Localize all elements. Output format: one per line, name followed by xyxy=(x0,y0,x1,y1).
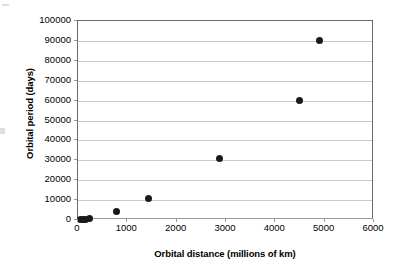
data-point xyxy=(216,155,223,162)
gridline-y-70000 xyxy=(78,81,372,82)
y-tick-label-30000: 30000 xyxy=(11,154,71,164)
gridline-y-20000 xyxy=(78,180,372,181)
y-tick-label-40000: 40000 xyxy=(11,134,71,144)
data-point xyxy=(113,208,120,215)
y-tick-label-10000: 10000 xyxy=(11,194,71,204)
data-point xyxy=(86,215,93,222)
y-tick-label-50000: 50000 xyxy=(11,115,71,125)
y-tick-mark-100000 xyxy=(74,20,77,21)
gridline-y-50000 xyxy=(78,121,372,122)
y-tick-mark-70000 xyxy=(74,80,77,81)
gridline-y-30000 xyxy=(78,160,372,161)
data-point xyxy=(145,195,152,202)
data-point xyxy=(296,97,303,104)
y-tick-label-90000: 90000 xyxy=(11,35,71,45)
data-point xyxy=(316,37,323,44)
x-tick-mark-4000 xyxy=(274,219,275,222)
y-tick-label-60000: 60000 xyxy=(11,95,71,105)
y-tick-mark-30000 xyxy=(74,159,77,160)
gridline-y-60000 xyxy=(78,101,372,102)
y-tick-mark-60000 xyxy=(74,100,77,101)
x-tick-mark-3000 xyxy=(225,219,226,222)
y-tick-mark-80000 xyxy=(74,60,77,61)
x-tick-mark-2000 xyxy=(176,219,177,222)
y-tick-label-100000: 100000 xyxy=(11,15,71,25)
x-axis-title: Orbital distance (millions of km) xyxy=(77,248,373,259)
gridline-y-80000 xyxy=(78,61,372,62)
y-tick-mark-20000 xyxy=(74,179,77,180)
y-tick-mark-50000 xyxy=(74,120,77,121)
x-tick-mark-5000 xyxy=(324,219,325,222)
scatter-chart: Orbital period (days) Orbital distance (… xyxy=(0,0,402,268)
gridline-y-10000 xyxy=(78,200,372,201)
y-tick-mark-40000 xyxy=(74,139,77,140)
gridline-y-40000 xyxy=(78,140,372,141)
scan-artifact-top-left xyxy=(2,4,9,6)
x-tick-mark-0 xyxy=(77,219,78,222)
y-tick-mark-90000 xyxy=(74,40,77,41)
y-tick-mark-10000 xyxy=(74,199,77,200)
gridline-y-90000 xyxy=(78,41,372,42)
plot-area xyxy=(77,20,373,219)
x-tick-mark-6000 xyxy=(373,219,374,222)
y-tick-label-80000: 80000 xyxy=(11,55,71,65)
y-tick-label-20000: 20000 xyxy=(11,174,71,184)
y-tick-label-70000: 70000 xyxy=(11,75,71,85)
x-tick-label-6000: 6000 xyxy=(343,223,402,233)
x-tick-mark-1000 xyxy=(126,219,127,222)
scan-artifact-left xyxy=(0,128,5,134)
